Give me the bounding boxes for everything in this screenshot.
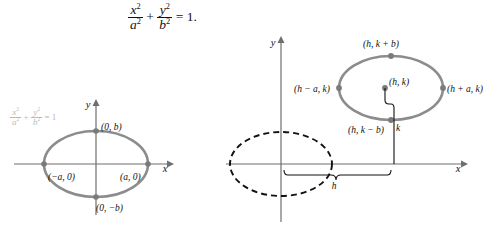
left-bottom-vertex-label: (0, −b) (96, 203, 123, 214)
left-chart-equation: x2 a2 + y2 b2 = 1 (10, 108, 56, 128)
right-bottom-vertex-label: (h, k − b) (348, 125, 384, 136)
h-measure-brace (284, 170, 391, 180)
h-measure-label: h (332, 181, 337, 191)
figure-root: x2 a2 + y2 b2 = 1. x2 a2 + y2 b2 = 1 (0, 0, 496, 227)
diagram-canvas: x y (0, b) (a, 0) (−a, 0) (0, −b) x y (0, 0, 496, 227)
left-y-axis-label: y (85, 99, 91, 110)
left-top-vertex-label: (0, b) (101, 122, 122, 133)
left-x-axis-label: x (162, 163, 168, 174)
right-bottom-vertex-point (388, 117, 394, 123)
equation-rhs: 1. (187, 9, 197, 24)
left-bottom-vertex-point (93, 194, 99, 200)
right-right-vertex-point (440, 85, 446, 91)
k-measure-label: k (396, 123, 401, 133)
right-translated-ellipse (339, 56, 443, 120)
left-plus-sign: + (24, 112, 29, 122)
left-right-vertex-point (145, 161, 151, 167)
equals-sign: = (176, 9, 184, 24)
left-top-vertex-point (93, 128, 99, 134)
plus-sign: + (146, 9, 154, 24)
right-left-vertex-label: (h − a, k) (294, 84, 330, 95)
fraction-y-over-b: y2 b2 (157, 3, 172, 32)
k-measure-brace (385, 88, 394, 164)
right-chart: x y (h, k + b) (h + a, k) (h − a, k) (h,… (226, 37, 483, 222)
left-fraction-x-over-a: x2 a2 (10, 108, 21, 128)
left-fraction-y-over-b: y2 b2 (31, 108, 42, 128)
right-left-vertex-point (336, 85, 342, 91)
right-top-vertex-label: (h, k + b) (363, 39, 399, 50)
left-right-vertex-label: (a, 0) (120, 172, 141, 183)
right-right-vertex-label: (h + a, k) (447, 84, 483, 95)
right-center-label: (h, k) (389, 77, 409, 88)
left-equals-sign: = (44, 112, 49, 122)
right-top-vertex-point (388, 53, 394, 59)
right-y-axis-label: y (270, 37, 276, 48)
display-equation: x2 a2 + y2 b2 = 1. (128, 3, 197, 32)
right-x-axis-label: x (455, 163, 461, 174)
left-left-vertex-point (41, 161, 47, 167)
left-left-vertex-label: (−a, 0) (48, 172, 75, 183)
fraction-x-over-a: x2 a2 (128, 3, 143, 32)
left-equation-rhs: 1 (52, 112, 57, 122)
